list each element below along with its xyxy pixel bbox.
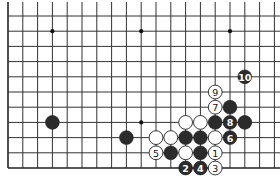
- stone-disc: [208, 116, 222, 130]
- white-stone-move-5: 5: [149, 146, 163, 160]
- move-number: 1: [212, 148, 218, 159]
- stone-disc: [194, 116, 208, 130]
- move-number: 8: [227, 117, 234, 128]
- move-number: 7: [212, 102, 218, 113]
- black-stone: [238, 116, 252, 130]
- black-stone: [194, 131, 208, 145]
- black-stone: [194, 146, 208, 160]
- black-stone: [179, 131, 193, 145]
- move-number: 6: [227, 133, 234, 144]
- white-stone: [179, 116, 193, 130]
- stone-disc: [120, 131, 134, 145]
- white-stone: [149, 131, 163, 145]
- stone-disc: [179, 146, 193, 160]
- star-point: [50, 29, 54, 33]
- stone-disc: [208, 131, 222, 145]
- black-stone-move-2: 2: [179, 161, 193, 175]
- stone-disc: [179, 116, 193, 130]
- white-stone-move-7: 7: [208, 100, 222, 114]
- black-stone-move-10: 10: [238, 70, 252, 84]
- star-point: [139, 120, 143, 124]
- black-stone-move-6: 6: [223, 131, 237, 145]
- move-number: 3: [212, 163, 218, 174]
- stone-disc: [238, 116, 252, 130]
- star-point: [139, 29, 143, 33]
- white-stone: [208, 131, 222, 145]
- stone-disc: [164, 131, 178, 145]
- white-stone: [179, 146, 193, 160]
- stone-disc: [223, 100, 237, 114]
- stone-disc: [149, 131, 163, 145]
- move-number: 2: [182, 163, 189, 174]
- black-stone-move-8: 8: [223, 116, 237, 130]
- white-stone-move-9: 9: [208, 85, 222, 99]
- black-stone: [223, 100, 237, 114]
- move-number: 4: [197, 163, 204, 174]
- stone-disc: [194, 146, 208, 160]
- star-point: [228, 29, 232, 33]
- stone-disc: [179, 131, 193, 145]
- white-stone-move-1: 1: [208, 146, 222, 160]
- black-stone: [46, 116, 60, 130]
- stone-disc: [194, 131, 208, 145]
- white-stone-move-3: 3: [208, 161, 222, 175]
- white-stone: [194, 116, 208, 130]
- go-board: 10978651243: [0, 0, 280, 180]
- board-grid: [8, 2, 280, 168]
- stone-disc: [46, 116, 60, 130]
- black-stone: [164, 146, 178, 160]
- move-number: 10: [238, 72, 252, 83]
- white-stone: [164, 131, 178, 145]
- black-stone: [120, 131, 134, 145]
- black-stone-move-4: 4: [194, 161, 208, 175]
- black-stone: [208, 116, 222, 130]
- move-number: 5: [153, 148, 159, 159]
- stone-disc: [164, 146, 178, 160]
- move-number: 9: [212, 87, 218, 98]
